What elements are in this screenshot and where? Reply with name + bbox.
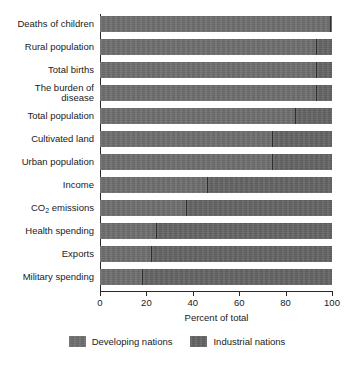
bar-segment-industrial bbox=[316, 62, 332, 78]
bar-segment-developing bbox=[100, 223, 156, 239]
bar-row bbox=[100, 16, 332, 32]
bar-row bbox=[100, 108, 332, 124]
bar-segment-developing bbox=[100, 177, 207, 193]
bar-texture bbox=[143, 269, 332, 285]
bar-segment-industrial bbox=[186, 200, 332, 216]
x-axis-tick-label: 60 bbox=[234, 297, 245, 308]
bar-texture bbox=[273, 131, 332, 147]
bar-texture bbox=[273, 154, 332, 170]
bar-texture bbox=[100, 62, 316, 78]
bar-texture bbox=[100, 16, 330, 32]
bar-segment-industrial bbox=[272, 154, 332, 170]
x-axis-title: Percent of total bbox=[100, 312, 333, 323]
bar-row bbox=[100, 269, 332, 285]
bar-segment-developing bbox=[100, 246, 151, 262]
category-label: The burden ofdisease bbox=[0, 83, 94, 104]
bar-row bbox=[100, 200, 332, 216]
x-axis-tick bbox=[146, 292, 147, 296]
bar-texture bbox=[100, 177, 207, 193]
category-label: Rural population bbox=[0, 42, 94, 53]
bar-segment-developing bbox=[100, 131, 272, 147]
bar-segment-developing bbox=[100, 16, 330, 32]
bar-row bbox=[100, 131, 332, 147]
bar-texture bbox=[331, 16, 332, 32]
bar-row bbox=[100, 177, 332, 193]
x-axis-tick-label: 0 bbox=[97, 297, 102, 308]
category-axis-labels: Deaths of childrenRural populationTotal … bbox=[0, 14, 94, 291]
bar-texture bbox=[100, 131, 272, 147]
x-axis-tick bbox=[193, 292, 194, 296]
bar-texture bbox=[208, 177, 332, 193]
bar-texture bbox=[100, 39, 316, 55]
plot-area bbox=[100, 14, 332, 291]
bar-segment-developing bbox=[100, 62, 316, 78]
bar-row bbox=[100, 39, 332, 55]
chart-legend: Developing nationsIndustrial nations bbox=[0, 336, 354, 347]
bar-texture bbox=[100, 246, 151, 262]
bar-segment-developing bbox=[100, 269, 142, 285]
category-label: Total births bbox=[0, 65, 94, 76]
bar-segment-developing bbox=[100, 85, 316, 101]
category-label: Urban population bbox=[0, 157, 94, 168]
x-axis-tick bbox=[286, 292, 287, 296]
bar-texture bbox=[317, 62, 332, 78]
category-label: Deaths of children bbox=[0, 19, 94, 30]
bar-segment-industrial bbox=[142, 269, 332, 285]
bar-segment-industrial bbox=[272, 131, 332, 147]
category-label: Military spending bbox=[0, 272, 94, 283]
bar-segment-developing bbox=[100, 108, 295, 124]
bar-texture bbox=[100, 269, 142, 285]
bar-segment-industrial bbox=[151, 246, 332, 262]
category-label: Cultivated land bbox=[0, 134, 94, 145]
bar-segment-industrial bbox=[316, 85, 332, 101]
x-axis-tick bbox=[332, 292, 333, 296]
bar-row bbox=[100, 246, 332, 262]
bar-texture bbox=[187, 200, 332, 216]
stacked-bar-chart: Deaths of childrenRural populationTotal … bbox=[0, 0, 354, 365]
x-axis-tick-label: 80 bbox=[280, 297, 291, 308]
legend-label: Developing nations bbox=[92, 336, 173, 347]
category-label: Health spending bbox=[0, 226, 94, 237]
bar-segment-developing bbox=[100, 39, 316, 55]
legend-swatch-texture bbox=[190, 336, 207, 347]
category-label: Income bbox=[0, 180, 94, 191]
bar-segment-industrial bbox=[316, 39, 332, 55]
bar-row bbox=[100, 223, 332, 239]
bar-texture bbox=[100, 85, 316, 101]
x-axis-tick-label: 100 bbox=[324, 297, 340, 308]
bar-segment-developing bbox=[100, 200, 186, 216]
legend-swatch bbox=[69, 336, 86, 347]
x-axis-line bbox=[100, 291, 333, 292]
legend-swatch bbox=[190, 336, 207, 347]
bar-texture bbox=[157, 223, 332, 239]
bar-row bbox=[100, 154, 332, 170]
bar-texture bbox=[100, 223, 156, 239]
bar-texture bbox=[152, 246, 332, 262]
legend-swatch-texture bbox=[69, 336, 86, 347]
bar-texture bbox=[317, 39, 332, 55]
legend-item: Developing nations bbox=[69, 336, 173, 347]
bar-segment-industrial bbox=[330, 16, 332, 32]
category-label: Exports bbox=[0, 249, 94, 260]
x-axis-tick-label: 20 bbox=[141, 297, 152, 308]
bar-texture bbox=[296, 108, 332, 124]
legend-label: Industrial nations bbox=[213, 336, 285, 347]
bar-row bbox=[100, 62, 332, 78]
x-axis-tick-label: 40 bbox=[188, 297, 199, 308]
bar-texture bbox=[100, 200, 186, 216]
bar-segment-industrial bbox=[207, 177, 332, 193]
category-label: CO2 emissions bbox=[0, 203, 94, 215]
bar-segment-industrial bbox=[295, 108, 332, 124]
x-axis-tick bbox=[100, 292, 101, 296]
bar-texture bbox=[100, 108, 295, 124]
bar-row bbox=[100, 85, 332, 101]
legend-item: Industrial nations bbox=[190, 336, 285, 347]
bar-texture bbox=[317, 85, 332, 101]
bar-texture bbox=[100, 154, 272, 170]
bar-segment-industrial bbox=[156, 223, 332, 239]
category-label: Total population bbox=[0, 111, 94, 122]
bar-segment-developing bbox=[100, 154, 272, 170]
x-axis-tick bbox=[239, 292, 240, 296]
